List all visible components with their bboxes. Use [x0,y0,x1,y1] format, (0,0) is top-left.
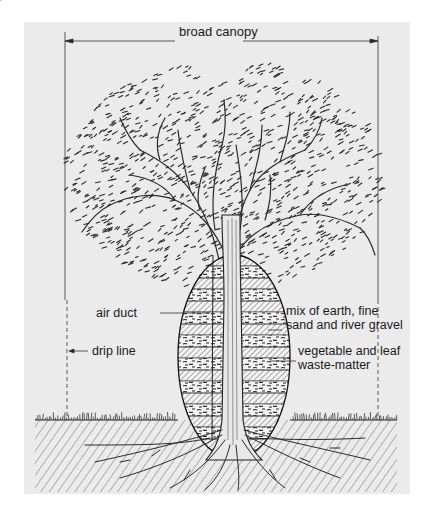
label-drip-line: drip line [92,344,136,358]
label-veg-line1: vegetable and leaf [298,344,400,358]
label-veg-line2: waste-matter [298,358,370,372]
tree-illustration [0,0,431,520]
label-air-duct: air duct [96,306,137,320]
label-mix-line2: sand and river gravel [286,318,403,332]
label-broad-canopy: broad canopy [176,25,261,39]
label-mix-line1: mix of earth, fine [286,304,378,318]
